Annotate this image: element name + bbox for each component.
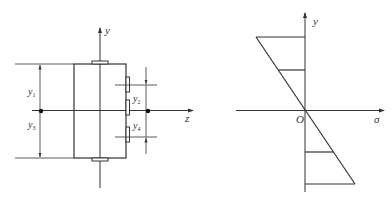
cross-section-panel (15, 28, 193, 188)
bottom-plate (92, 158, 108, 161)
origin-label: O (296, 113, 304, 125)
z-axis-label: z (184, 112, 190, 124)
stress-diagram-panel (236, 13, 384, 192)
side-plate-upper (126, 77, 130, 92)
side-plate-lower (126, 127, 130, 142)
dimension-label-y4: y4 (132, 120, 140, 132)
y-axis-label-right: y (312, 15, 318, 27)
top-plate (92, 61, 108, 64)
sigma-axis-label: σ (374, 113, 380, 125)
dimension-label-y3: y3 (27, 119, 35, 131)
y-axis-label-left: y (104, 24, 110, 36)
centroid-dot-left (39, 109, 43, 113)
side-plate-middle (126, 100, 130, 115)
dimension-label-y1: y1 (27, 86, 35, 98)
dimension-label-y2: y2 (132, 93, 140, 105)
centroid-dot-right (146, 109, 150, 113)
figure-canvas: y z y1 y3 y2 y4 y σ O (0, 0, 392, 203)
